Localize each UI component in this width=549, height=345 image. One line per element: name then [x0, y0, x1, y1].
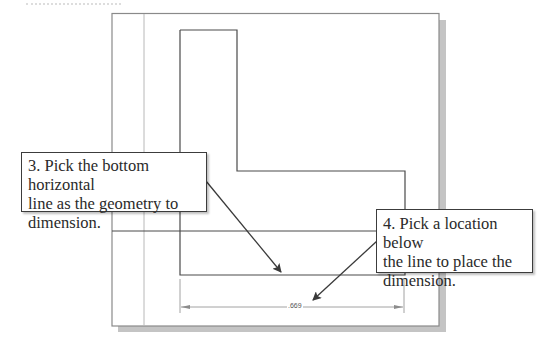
- callout-3-line-3: dimension.: [28, 213, 200, 232]
- callout-4-line-3: dimension.: [383, 271, 526, 290]
- callout-4-line-1: 4. Pick a location below: [383, 214, 526, 252]
- callout-3-line-2: line as the geometry to: [28, 194, 200, 213]
- callout-4-line-2: the line to place the: [383, 252, 526, 271]
- callout-3-line-1: 3. Pick the bottom horizontal: [28, 156, 200, 194]
- callout-step-4: 4. Pick a location below the line to pla…: [376, 209, 533, 273]
- dimension-value[interactable]: .669: [287, 302, 303, 309]
- callout-step-3: 3. Pick the bottom horizontal line as th…: [21, 152, 207, 212]
- cad-figure: .669 3. Pick the bottom horizontal line …: [0, 0, 549, 345]
